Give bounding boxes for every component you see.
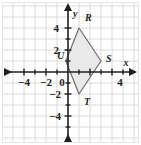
x-tick-label-neg2: −2 bbox=[40, 76, 52, 88]
x-tick-label-neg4: −4 bbox=[18, 76, 30, 88]
vertex-label-r: R bbox=[84, 12, 92, 23]
vertex-label-s: S bbox=[106, 53, 112, 64]
vertex-label-u: U bbox=[57, 50, 65, 61]
rhombus-graph-svg: −4 −2 4 0 4 2 −2 −4 y x R S T U bbox=[0, 0, 141, 145]
vertex-label-t: T bbox=[84, 96, 91, 107]
y-tick-label-neg2: −2 bbox=[49, 88, 61, 100]
y-tick-label-neg4: −4 bbox=[49, 110, 61, 122]
origin-label: 0 bbox=[59, 76, 65, 88]
y-axis-label: y bbox=[72, 8, 78, 19]
x-tick-label-4: 4 bbox=[117, 76, 123, 88]
coordinate-plane-figure: −4 −2 4 0 4 2 −2 −4 y x R S T U bbox=[0, 0, 141, 145]
y-tick-label-4: 4 bbox=[54, 22, 60, 34]
x-axis-label: x bbox=[123, 57, 129, 68]
